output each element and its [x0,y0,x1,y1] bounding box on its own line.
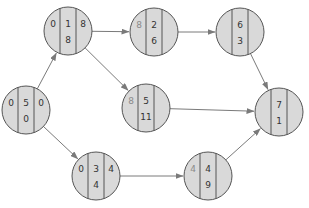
node-a: 0500 [2,86,50,134]
edge-arrow-a-b [37,53,56,89]
node-bottom-value: 9 [205,180,211,190]
node-circle [184,152,232,200]
edge-arrow-a-f [44,127,78,159]
node-top-value: 5 [23,98,29,108]
edge-arrow-d-h [251,54,269,90]
node-circle [2,86,50,134]
node-left-value: 8 [128,96,134,106]
node-top-value: 2 [151,20,157,30]
node-circle [72,152,120,200]
edge-arrow-g-h [226,129,261,160]
node-d: 63 [216,8,264,56]
node-left-value: 4 [190,164,196,174]
node-circle [255,88,303,136]
node-bottom-value: 8 [65,35,71,45]
node-top-value: 3 [93,164,99,174]
node-top-value: 4 [205,164,211,174]
node-e: 8511 [122,84,170,132]
node-circle [216,8,264,56]
node-bottom-value: 6 [151,36,157,46]
node-left-value: 0 [8,98,14,108]
node-g: 449 [184,152,232,200]
edge-arrow-e-h [170,109,254,112]
node-right-value: 4 [108,164,114,174]
edge-arrow-b-e [85,48,128,91]
node-left-value: 0 [50,19,56,29]
network-diagram: 05000188826638511034444971 [0,0,309,208]
node-left-value: 0 [78,164,84,174]
node-bottom-value: 11 [140,112,151,122]
node-b: 0188 [44,7,92,55]
node-bottom-value: 3 [237,36,243,46]
node-f: 0344 [72,152,120,200]
node-top-value: 1 [65,19,71,29]
node-top-value: 7 [276,100,282,110]
node-c: 826 [130,8,178,56]
node-circle [44,7,92,55]
node-right-value: 0 [38,98,44,108]
nodes-layer: 05000188826638511034444971 [2,7,303,200]
node-bottom-value: 0 [23,114,29,124]
node-top-value: 6 [237,20,243,30]
node-bottom-value: 4 [93,180,99,190]
node-top-value: 5 [143,96,149,106]
node-left-value: 8 [136,20,142,30]
node-bottom-value: 1 [276,116,282,126]
node-circle [122,84,170,132]
node-circle [130,8,178,56]
node-right-value: 8 [80,19,86,29]
node-h: 71 [255,88,303,136]
